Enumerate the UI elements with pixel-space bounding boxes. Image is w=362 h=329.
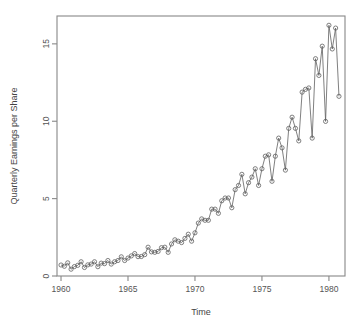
x-tick-label: 1980 [319, 284, 338, 294]
y-tick-label: 5 [41, 196, 51, 201]
x-tick-label: 1960 [52, 284, 71, 294]
plot-background [0, 0, 362, 329]
x-tick-label: 1970 [186, 284, 205, 294]
chart-figure: 19601965197019751980 051015 Time Quarter… [0, 0, 362, 329]
x-tick-label: 1975 [252, 284, 271, 294]
x-axis-title: Time [191, 307, 211, 317]
y-tick-label: 0 [41, 273, 51, 278]
x-tick-label: 1965 [119, 284, 138, 294]
y-axis-title: Quarterly Earnings per Share [9, 87, 19, 204]
y-tick-label: 15 [41, 39, 51, 49]
time-series-plot: 19601965197019751980 051015 Time Quarter… [0, 0, 362, 329]
y-tick-label: 10 [41, 116, 51, 126]
